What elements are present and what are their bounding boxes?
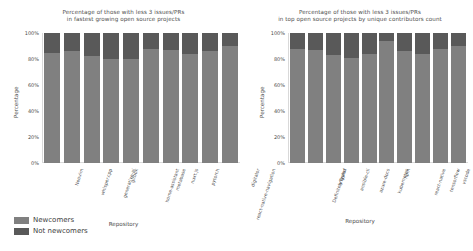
figure-two-stacked-bar-charts: Percentage of those with less 3 issues/P… (0, 0, 473, 251)
bar-group-right (288, 33, 468, 163)
x-tick-left-0: Neovim (74, 168, 84, 186)
chart-title-right-line1: Percentage of those with less 3 issues/P… (247, 9, 473, 16)
x-tick-left-1: whisper.cpp (100, 168, 113, 196)
table-row (451, 33, 466, 163)
chart-title-left: Percentage of those with less 3 issues/P… (0, 9, 247, 24)
table-row (362, 33, 377, 163)
y-tick-right-60: 60% (274, 82, 285, 88)
chart-title-right: Percentage of those with less 3 issues/P… (247, 9, 473, 24)
table-row (379, 33, 394, 163)
x-tick-left-7: pytorch (210, 168, 220, 186)
x-axis-label-right: Repository (247, 218, 473, 224)
table-row (290, 33, 305, 163)
table-row (163, 33, 179, 163)
table-row (222, 33, 238, 163)
y-tick-right-40: 40% (274, 108, 285, 114)
y-tick-right-0: 0% (277, 160, 285, 166)
table-row (326, 33, 341, 163)
legend-item-newcomers: Newcomers (14, 216, 88, 224)
x-tick-right-8: vscode (461, 168, 471, 185)
x-tick-right-2: ansible-cli (359, 168, 371, 192)
table-row (308, 33, 323, 163)
table-row (344, 33, 359, 163)
legend-label-newcomers: Newcomers (33, 216, 74, 224)
x-tick-right-7: tensorflow (449, 168, 461, 192)
table-row (64, 33, 80, 163)
x-tick-left-6: nuxt.js (190, 168, 200, 184)
table-row (103, 33, 119, 163)
y-tick-left-40: 40% (28, 108, 39, 114)
plot-area-left: 0% 20% 40% 60% 80% 100% Neovim whisper.c… (42, 33, 240, 163)
legend-item-not-newcomers: Not newcomers (14, 227, 88, 235)
table-row (84, 33, 100, 163)
y-tick-left-100: 100% (25, 30, 39, 36)
table-row (397, 33, 412, 163)
x-tick-right-1: angular (337, 168, 347, 186)
y-tick-left-0: 0% (31, 160, 39, 166)
table-row (44, 33, 60, 163)
y-tick-left-60: 60% (28, 82, 39, 88)
table-row (182, 33, 198, 163)
chart-panel-fastest-growing: Percentage of those with less 3 issues/P… (0, 0, 247, 251)
x-tick-right-6: react-native (433, 168, 446, 196)
legend-swatch-not-newcomers (14, 228, 29, 235)
legend: Newcomers Not newcomers (14, 216, 88, 235)
y-tick-left-20: 20% (28, 134, 39, 140)
legend-label-not-newcomers: Not newcomers (33, 227, 88, 235)
plot-area-right: 0% 20% 40% 60% 80% 100% DefinitelyTyped … (288, 33, 468, 163)
chart-title-right-line2: in top open source projects by unique co… (247, 16, 473, 23)
y-tick-right-100: 100% (271, 30, 285, 36)
table-row (433, 33, 448, 163)
y-tick-right-80: 80% (274, 56, 285, 62)
table-row (415, 33, 430, 163)
x-tick-right-3: azure-docs (378, 168, 391, 193)
table-row (143, 33, 159, 163)
y-tick-right-20: 20% (274, 134, 285, 140)
y-tick-left-80: 80% (28, 56, 39, 62)
legend-swatch-newcomers (14, 217, 29, 224)
bar-group-left (42, 33, 240, 163)
chart-title-left-line2: in fastest growing open source projects (0, 16, 247, 23)
y-axis-label-left: Percentage (13, 87, 19, 118)
y-axis-label-right: Percentage (259, 87, 265, 118)
chart-title-left-line1: Percentage of those with less 3 issues/P… (0, 9, 247, 16)
table-row (202, 33, 218, 163)
chart-panel-top-projects: Percentage of those with less 3 issues/P… (247, 0, 473, 251)
table-row (123, 33, 139, 163)
